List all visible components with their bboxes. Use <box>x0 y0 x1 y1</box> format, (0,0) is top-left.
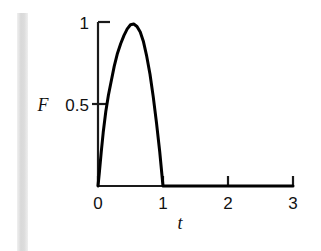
x-tick-label-1: 1 <box>158 194 167 213</box>
x-axis-title: t <box>177 213 183 233</box>
y-tick-label-0-5: 0.5 <box>65 96 89 115</box>
x-tick-label-3: 3 <box>288 194 297 213</box>
x-tick-label-2: 2 <box>223 194 232 213</box>
x-tick-label-0: 0 <box>93 194 102 213</box>
y-axis-title: F <box>37 95 50 115</box>
plot-area: 1 0.5 0 1 2 3 F t <box>0 0 321 251</box>
y-tick-label-1: 1 <box>80 14 89 33</box>
data-curve <box>98 24 293 186</box>
figure-container: 1 0.5 0 1 2 3 F t <box>0 0 321 251</box>
